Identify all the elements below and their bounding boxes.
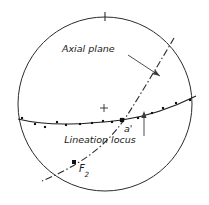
axial-plane-curve: [42, 38, 174, 181]
data-point: [91, 122, 93, 124]
data-point: [151, 112, 153, 114]
point-f2: [72, 160, 76, 164]
data-point: [56, 121, 58, 123]
data-point: [79, 123, 81, 125]
data-point: [111, 121, 113, 123]
a-prime-label: a': [124, 123, 132, 134]
center-cross-icon: [100, 104, 108, 112]
data-point: [162, 107, 164, 109]
axial-plane-label: Axial plane: [61, 43, 115, 54]
lineation-locus-label: Lineation locus: [64, 134, 136, 145]
data-point: [137, 117, 139, 119]
data-point: [65, 124, 67, 126]
axial-plane-leader: [128, 55, 160, 76]
data-point: [44, 126, 46, 128]
data-point: [175, 102, 177, 104]
point-a-prime: [120, 118, 124, 122]
f2-label: F 2: [79, 163, 90, 179]
lineation-locus-curve: [18, 96, 196, 124]
data-point: [189, 99, 191, 101]
stereonet-figure: Axial plane Lineation locus a' F 2: [0, 0, 209, 205]
data-point: [102, 120, 104, 122]
data-point: [21, 117, 23, 119]
data-point: [34, 123, 36, 125]
stereonet-canvas: Axial plane Lineation locus a' F 2: [0, 0, 209, 205]
f2-label-subscript: 2: [85, 170, 90, 179]
